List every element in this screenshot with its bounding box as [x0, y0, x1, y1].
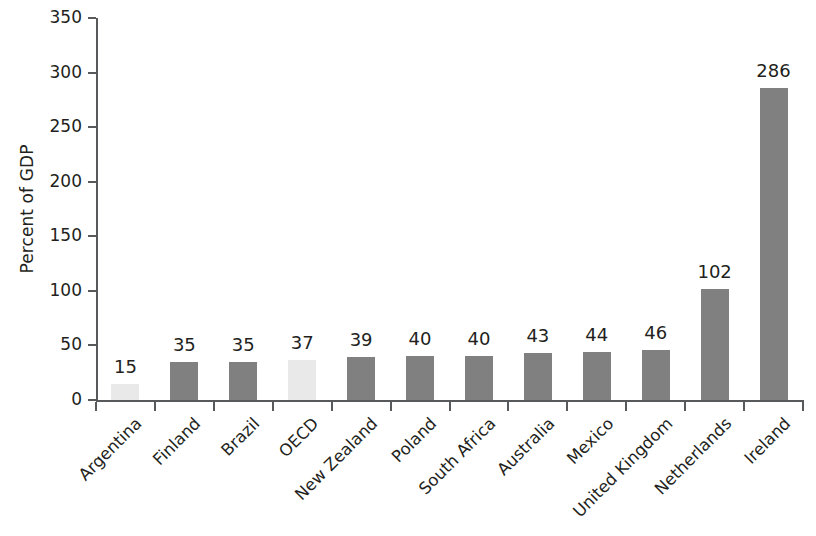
- x-axis-category-labels: ArgentinaFinlandBrazilOECDNew ZealandPol…: [0, 0, 816, 536]
- bar-chart: Percent of GDP 050100150200250300350 153…: [0, 0, 816, 536]
- x-axis-category-label: Argentina: [0, 415, 146, 536]
